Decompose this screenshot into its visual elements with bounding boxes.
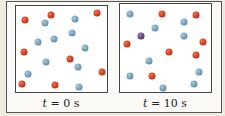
caption-t10: t = 10 s <box>120 97 210 110</box>
red-particle <box>124 41 131 48</box>
blue-particle <box>127 73 134 80</box>
blue-particle <box>35 39 42 46</box>
blue-particle <box>51 36 58 43</box>
red-particle <box>99 69 106 76</box>
blue-particle <box>181 19 188 26</box>
blue-particle <box>72 16 79 23</box>
red-particle <box>52 82 59 89</box>
blue-particle <box>69 30 76 37</box>
panel-t0 <box>15 5 108 93</box>
blue-particle <box>196 69 203 76</box>
blue-particle <box>43 59 50 66</box>
red-particle <box>21 49 28 56</box>
blue-particle <box>152 25 159 32</box>
red-particle <box>166 49 173 56</box>
red-particle <box>149 73 156 80</box>
caption-text: = 10 s <box>148 97 187 110</box>
red-particle <box>159 11 166 18</box>
red-particle <box>67 56 74 63</box>
blue-particle <box>75 64 82 71</box>
caption-text: = 0 s <box>47 97 79 110</box>
blue-particle <box>181 33 188 40</box>
blue-particle <box>127 11 134 18</box>
red-particle <box>193 52 200 59</box>
blue-particle <box>25 71 32 78</box>
red-particle <box>200 39 207 46</box>
caption-t0: t = 0 s <box>16 97 106 110</box>
red-particle <box>94 10 101 17</box>
blue-particle <box>146 58 153 65</box>
purple-particle <box>138 33 145 40</box>
blue-particle <box>191 81 198 88</box>
blue-particle <box>42 20 49 27</box>
red-particle <box>19 81 26 88</box>
blue-particle <box>82 45 89 52</box>
blue-particle <box>76 84 83 91</box>
blue-particle <box>160 85 167 92</box>
red-particle <box>193 12 200 19</box>
red-particle <box>48 12 55 19</box>
red-particle <box>22 17 29 24</box>
